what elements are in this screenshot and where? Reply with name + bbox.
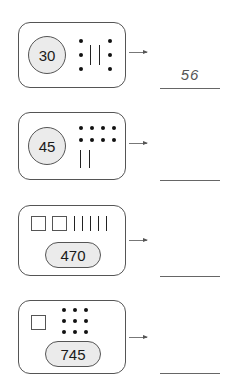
tens-tally (98, 216, 99, 231)
ones-dot (79, 138, 83, 142)
tens-tally (82, 216, 83, 231)
number-circle: 45 (28, 127, 66, 165)
ones-dot (84, 319, 88, 323)
ones-dot (73, 308, 77, 312)
ones-dot (101, 126, 105, 130)
number-label: 30 (39, 47, 56, 64)
problem-card-3: 470 (18, 205, 126, 276)
ones-dot (84, 308, 88, 312)
tens-tally (89, 150, 90, 168)
number-pill: 745 (45, 341, 101, 367)
number-label: 745 (60, 346, 85, 363)
arrow-icon (129, 52, 147, 53)
ones-dot (73, 330, 77, 334)
answer-line[interactable] (160, 373, 220, 374)
ones-dot (62, 330, 66, 334)
problem-card-2: 45 (18, 112, 126, 180)
ones-dot (108, 39, 112, 43)
hundreds-square (31, 216, 46, 231)
ones-dot (79, 67, 83, 71)
tens-tally (90, 216, 91, 231)
ones-dot (112, 126, 116, 130)
arrow-icon (129, 240, 147, 241)
answer-text: 56 (160, 66, 220, 83)
tens-tally (90, 45, 91, 65)
answer-line[interactable] (160, 180, 220, 181)
number-circle: 30 (28, 36, 66, 74)
ones-dot (108, 53, 112, 57)
number-label: 470 (60, 247, 85, 264)
hundreds-square (52, 216, 67, 231)
answer-line[interactable] (160, 88, 220, 89)
tens-tally (80, 150, 81, 168)
tens-tally (106, 216, 107, 231)
ones-dot (62, 308, 66, 312)
ones-dot (108, 67, 112, 71)
tens-tally (99, 45, 100, 65)
ones-dot (101, 138, 105, 142)
hundreds-square (31, 315, 46, 330)
ones-dot (84, 330, 88, 334)
number-label: 45 (39, 138, 56, 155)
ones-dot (79, 39, 83, 43)
ones-dot (90, 126, 94, 130)
answer-line[interactable] (160, 276, 220, 277)
arrow-icon (129, 337, 147, 338)
ones-dot (79, 53, 83, 57)
tens-tally (74, 216, 75, 231)
ones-dot (112, 138, 116, 142)
problem-card-4: 745 (18, 300, 126, 374)
ones-dot (62, 319, 66, 323)
ones-dot (90, 138, 94, 142)
number-pill: 470 (45, 242, 101, 268)
problem-card-1: 30 (18, 22, 126, 88)
ones-dot (79, 126, 83, 130)
ones-dot (73, 319, 77, 323)
arrow-icon (129, 143, 147, 144)
